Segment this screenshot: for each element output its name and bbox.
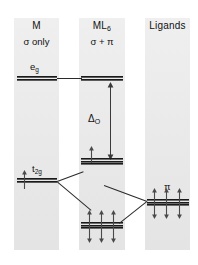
column-title-complex-main: ML — [93, 20, 107, 31]
level-label-t2g-subscript: 2g — [35, 168, 42, 175]
column-title-complex-subscript: 6 — [107, 25, 111, 32]
delta-o-arrow — [106, 82, 115, 160]
electron-arrow-bonding-down-2 — [98, 226, 105, 243]
correlation-line-eg — [57, 78, 82, 79]
column-title-metal: M — [14, 20, 59, 31]
electron-arrow-ligand-up-1 — [151, 188, 158, 204]
delta-o-subscript: O — [95, 118, 100, 125]
electron-arrow-bonding-up-2 — [98, 210, 105, 227]
column-panel-metal — [14, 18, 59, 250]
level-label-eg-subscript: g — [35, 66, 39, 73]
column-subtitle-metal: σ only — [14, 36, 59, 47]
electron-arrow-bonding-down-1 — [86, 226, 93, 243]
complex-eg-antibonding-level — [81, 76, 123, 81]
electron-arrow-ligand-down-1 — [151, 203, 158, 219]
metal-eg-level — [17, 76, 57, 81]
level-label-eg: eg — [30, 62, 39, 73]
electron-arrow-bonding-up-1 — [86, 210, 93, 227]
delta-o-label: ΔO — [88, 113, 100, 124]
column-subtitle-complex: σ + π — [79, 36, 125, 47]
electron-arrow-bonding-up-3 — [110, 210, 117, 227]
electron-arrow-metal-t2g-up — [21, 170, 28, 190]
delta-o-symbol: Δ — [88, 113, 95, 124]
level-label-t2g: t2g — [32, 164, 42, 175]
electron-arrow-ligand-up-2 — [163, 188, 170, 204]
electron-arrow-ligand-up-3 — [176, 188, 183, 204]
mo-diagram-canvas: M σ only ML6 σ + π Ligands eg ΔO t2g — [0, 0, 198, 265]
electron-arrow-ligand-down-3 — [176, 203, 183, 219]
electron-arrow-complex-t2g-up — [88, 146, 95, 164]
column-title-complex: ML6 — [79, 20, 125, 32]
electron-arrow-ligand-down-2 — [163, 203, 170, 219]
column-title-ligands: Ligands — [145, 20, 190, 31]
electron-arrow-bonding-down-3 — [110, 226, 117, 243]
